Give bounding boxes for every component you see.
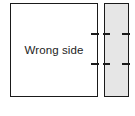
upper-tick-main-edge <box>91 33 99 35</box>
side-strip-panel <box>104 3 129 97</box>
lower-tick-strip-left <box>103 63 110 65</box>
lower-tick-strip-right <box>122 63 130 65</box>
diagram-canvas: Wrong side <box>0 0 135 116</box>
lower-tick-main-edge <box>91 63 99 65</box>
upper-tick-strip-right <box>122 33 130 35</box>
upper-tick-strip-left <box>103 33 110 35</box>
main-panel-label: Wrong side <box>10 42 98 58</box>
